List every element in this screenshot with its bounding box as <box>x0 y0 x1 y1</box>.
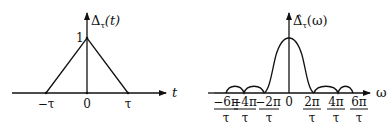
tick-neg-2pi: −2π τ <box>255 95 281 125</box>
tick-neg-4pi: −4π τ <box>231 95 257 125</box>
right-plot: Δ̂τ(ω) ω −6π τ −4π τ −2π τ 0 2π τ 4π <box>208 13 387 125</box>
tick-6pi: 6π τ <box>350 95 368 125</box>
right-x-label: ω <box>376 85 387 100</box>
svg-text:τ: τ <box>223 111 230 125</box>
tick-zero: 0 <box>83 97 91 111</box>
svg-text:6π: 6π <box>351 95 367 109</box>
svg-text:τ: τ <box>266 111 273 125</box>
svg-text:−4π: −4π <box>231 95 257 109</box>
figure: Δτ(t) 1 t −τ 0 τ Δ̂τ(ω) ω −6π τ −4π τ <box>0 0 392 130</box>
svg-text:4π: 4π <box>328 95 344 109</box>
svg-text:τ: τ <box>309 111 316 125</box>
svg-text:0: 0 <box>285 95 293 109</box>
peak-label: 1 <box>76 31 84 45</box>
tick-2pi: 2π τ <box>303 95 321 125</box>
svg-text:τ: τ <box>333 111 340 125</box>
left-y-label: Δτ(t) <box>91 13 120 30</box>
tick-tau: τ <box>125 97 132 111</box>
left-x-label: t <box>172 85 178 100</box>
right-y-label: Δ̂τ(ω) <box>293 13 328 30</box>
svg-text:−2π: −2π <box>255 95 281 109</box>
svg-text:2π: 2π <box>304 95 320 109</box>
left-plot: Δτ(t) 1 t −τ 0 τ <box>12 13 178 111</box>
tick-4pi: 4π τ <box>327 95 345 125</box>
tick-zero-omega: 0 <box>285 95 293 109</box>
svg-text:τ: τ <box>242 111 249 125</box>
tick-neg-tau: −τ <box>38 97 55 111</box>
svg-text:τ: τ <box>356 111 363 125</box>
